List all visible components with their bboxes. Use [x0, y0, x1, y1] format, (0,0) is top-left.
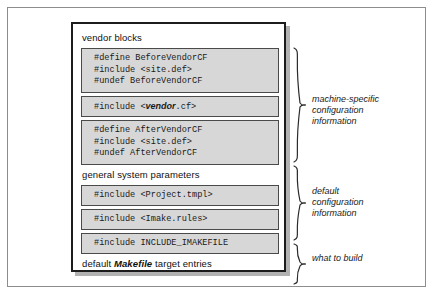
code-block-imake-rules: #include <Imake.rules>: [81, 209, 279, 230]
code-text-prefix: #include <: [94, 102, 146, 112]
code-block-vendor-cf: #include <vendor.cf>: [81, 96, 279, 117]
code-block-before-vendor-cf: #define BeforeVendorCF #include <site.de…: [81, 48, 279, 93]
footer-emphasis: Makefile: [114, 258, 152, 269]
code-block-project-tmpl: #include <Project.tmpl>: [81, 185, 279, 206]
code-line-0: #include <Project.tmpl>: [94, 190, 213, 200]
annotation-default-configuration: default configuration information: [312, 186, 364, 220]
code-line-0: #include <Imake.rules>: [94, 214, 207, 224]
code-line-2: #undef BeforeVendorCF: [94, 76, 202, 86]
code-line-2: #undef AfterVendorCF: [94, 148, 197, 158]
brace-machine-specific: [292, 46, 308, 164]
footer-prefix: default: [82, 258, 114, 269]
annotation-machine-specific: machine-specific configuration informati…: [312, 94, 379, 128]
brace-what-to-build: [292, 242, 308, 286]
brace-default-configuration: [292, 164, 308, 242]
code-block-after-vendor-cf: #define AfterVendorCF #include <site.def…: [81, 120, 279, 165]
section-label-vendor-blocks: vendor blocks: [82, 32, 142, 43]
code-line-1: #include <site.def>: [94, 137, 192, 147]
code-line-0: #define BeforeVendorCF: [94, 53, 207, 63]
section-label-default-makefile-targets: default Makefile target entries: [82, 258, 212, 269]
section-label-general-system-parameters: general system parameters: [82, 169, 200, 180]
code-text-variable: vendor: [146, 101, 176, 111]
footer-suffix: target entries: [152, 258, 212, 269]
annotation-what-to-build: what to build: [312, 253, 363, 264]
code-block-include-imakefile: #include INCLUDE_IMAKEFILE: [81, 233, 279, 254]
code-line-1: #include <site.def>: [94, 65, 192, 75]
code-text-suffix: .cf>: [176, 102, 197, 112]
code-line-0: #include INCLUDE_IMAKEFILE: [94, 238, 228, 248]
imakefile-structure-box: vendor blocks #define BeforeVendorCF #in…: [71, 22, 286, 272]
code-line-0: #define AfterVendorCF: [94, 125, 202, 135]
